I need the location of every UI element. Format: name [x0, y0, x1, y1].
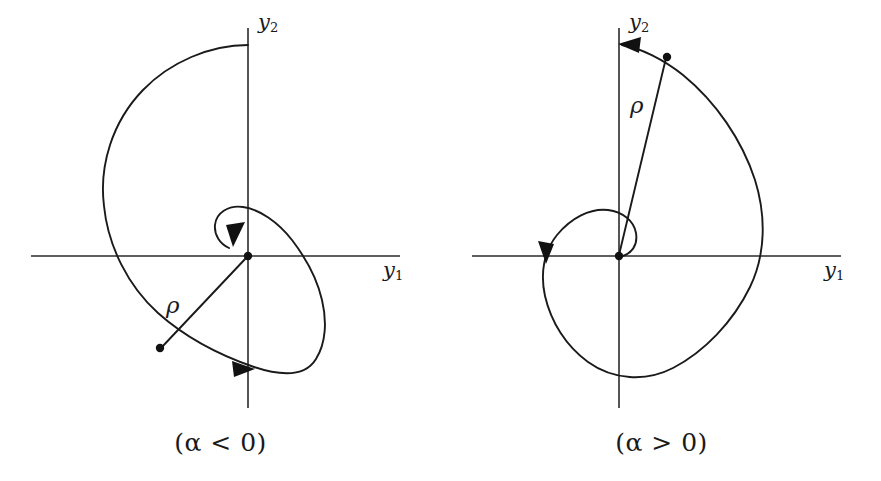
panel-right-canvas: [441, 0, 881, 481]
origin-dot: [615, 252, 623, 260]
inward-direction-arrow-icon: [226, 222, 245, 247]
spiral-figure: y2 y1 ρ (α < 0) y2: [0, 0, 881, 481]
y2-axis-label: y2: [258, 10, 278, 35]
panel-left-canvas: [0, 0, 441, 481]
rho-label: ρ: [166, 292, 180, 318]
spiral-point-dot: [663, 53, 671, 61]
y1-axis-label: y1: [383, 258, 403, 283]
spiral-curve-decaying: [103, 45, 325, 373]
outward-direction-arrow-icon: [618, 37, 641, 53]
spiral-curve-growing: [543, 45, 763, 377]
y2-axis-label: y2: [629, 10, 649, 35]
radius-line: [619, 58, 666, 255]
panel-caption-alpha-positive: (α > 0): [441, 428, 881, 457]
rho-label: ρ: [630, 92, 644, 118]
panel-alpha-negative: y2 y1 ρ (α < 0): [0, 0, 441, 481]
spiral-point-dot: [156, 344, 164, 352]
panel-caption-alpha-negative: (α < 0): [0, 428, 441, 457]
crossing-direction-arrow-icon: [538, 241, 554, 264]
panel-alpha-positive: y2 y1 ρ (α > 0): [441, 0, 881, 481]
origin-dot: [244, 252, 252, 260]
y1-axis-label: y1: [824, 258, 844, 283]
